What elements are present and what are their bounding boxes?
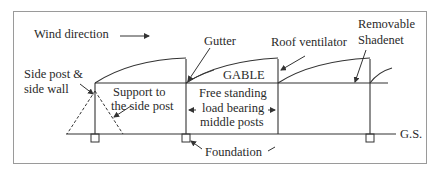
middle-posts-label-1: Free standing xyxy=(199,86,267,100)
ground-surface-label: G.S. xyxy=(400,127,422,141)
side-support-left xyxy=(67,91,95,134)
foundation-pointer xyxy=(191,141,202,149)
roof-arch-1 xyxy=(95,58,186,83)
shadenet-label-2: Shadenet xyxy=(358,33,404,47)
wind-direction-label: Wind direction xyxy=(34,27,110,41)
gable-label: GABLE xyxy=(223,68,265,82)
side-post-pointer xyxy=(80,84,93,94)
foundation-label: Foundation xyxy=(205,145,263,159)
gutter-label: Gutter xyxy=(204,34,237,48)
support-label-2: the side post xyxy=(111,99,174,113)
roof-ventilator-pointer xyxy=(281,56,305,70)
greenhouse-diagram: Wind direction Gutter Roof ventilator Re… xyxy=(0,0,440,172)
shadenet-pointer xyxy=(355,50,366,82)
roof-ventilator-label: Roof ventilator xyxy=(271,35,348,49)
middle-posts-label-2: load bearing xyxy=(202,101,265,115)
foundation-1 xyxy=(91,134,99,142)
roof-arch-4-partial xyxy=(370,68,392,83)
support-label-1: Support to xyxy=(113,85,165,99)
foundation-pointer-right xyxy=(268,147,275,151)
side-post-label-1: Side post & xyxy=(24,67,83,81)
middle-posts-label-3: middle posts xyxy=(200,115,264,129)
shadenet-label-1: Removable xyxy=(358,17,415,31)
foundation-3 xyxy=(366,134,374,142)
foundation-2 xyxy=(182,134,190,142)
side-post-label-2: side wall xyxy=(24,82,69,96)
gutter-line xyxy=(186,70,214,83)
